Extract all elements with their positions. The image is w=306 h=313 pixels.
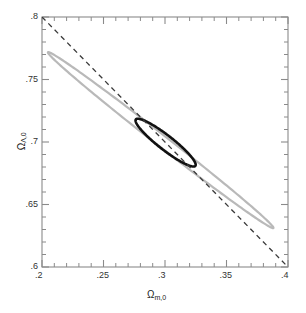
x-axis-title-subscript: m,0 [154,294,166,301]
y-tick-label: .6 [12,262,38,271]
y-tick-label: .75 [12,75,38,84]
x-tick-label: .35 [220,271,233,280]
y-tick-label: .7 [12,137,38,146]
x-tick-label: .25 [97,271,110,280]
x-tick-label: .2 [35,271,43,280]
x-axis-title: Ωm,0 [147,290,166,301]
y-tick-label: .8 [12,12,38,21]
cosmology-contour-plot [0,0,306,313]
x-tick-label: .3 [158,271,166,280]
x-tick-label: .4 [281,271,289,280]
y-tick-label: .65 [12,200,38,209]
